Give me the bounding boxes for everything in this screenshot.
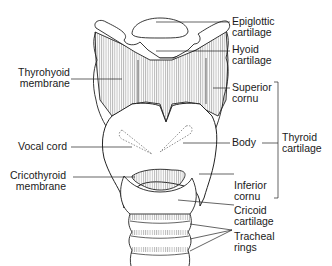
- label-tracheal-rings: Tracheal rings: [234, 231, 274, 253]
- larynx-diagram: Thyrohyoid membrane Vocal cord Cricothyr…: [0, 0, 332, 266]
- label-vocal-cord: Vocal cord: [18, 141, 67, 152]
- label-thyroid-cartilage: Thyroid cartilage: [282, 132, 322, 154]
- cricothyroid-membrane-shape: [132, 169, 185, 190]
- epiglottis-shape: [132, 18, 188, 38]
- label-body: Body: [232, 137, 256, 148]
- label-epiglottic-cartilage: Epiglottic cartilage: [232, 16, 275, 38]
- label-superior-cornu: Superior cornu: [232, 82, 272, 104]
- label-hyoid-cartilage: Hyoid cartilage: [232, 44, 272, 66]
- label-cricoid-cartilage: Cricoid cartilage: [234, 205, 274, 227]
- label-cricothyroid-membrane: Cricothyroid membrane: [10, 170, 66, 192]
- label-thyrohyoid-membrane: Thyrohyoid membrane: [18, 67, 70, 89]
- label-inferior-cornu: Inferior cornu: [234, 180, 267, 202]
- thyrohyoid-membrane-shape: [95, 30, 228, 122]
- trachea-shape: [129, 214, 192, 266]
